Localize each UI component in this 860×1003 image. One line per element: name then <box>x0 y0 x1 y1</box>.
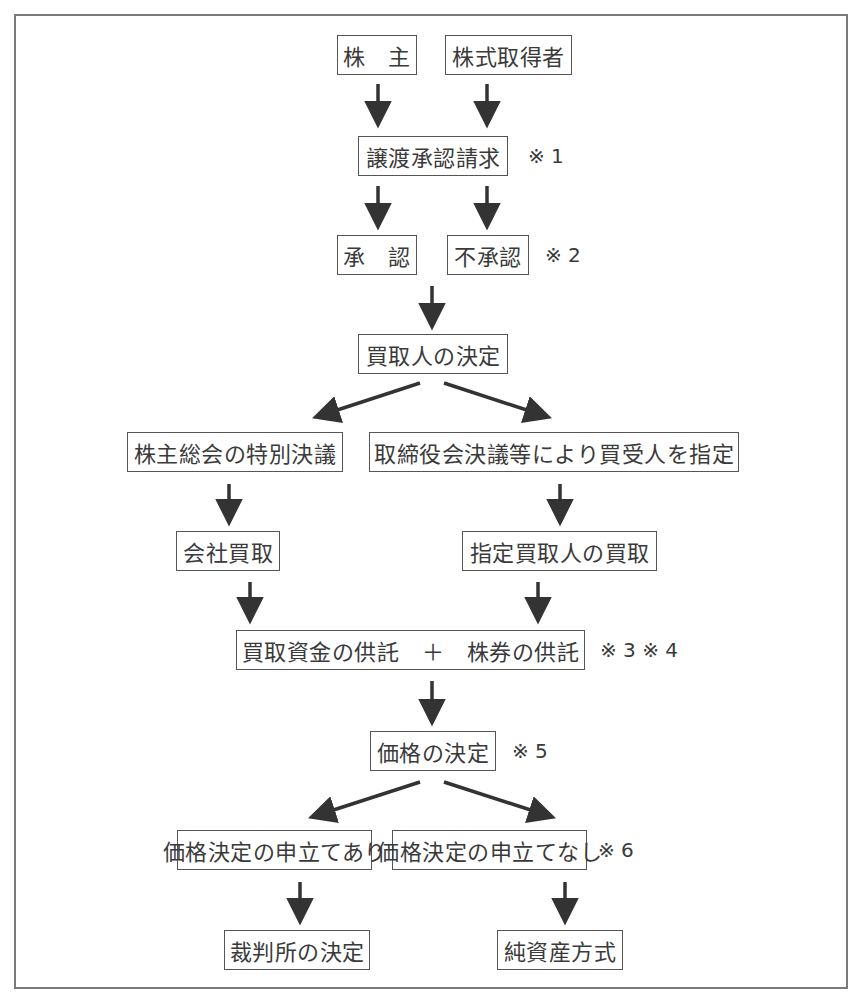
arrow-buyer-to-resolution <box>322 383 420 415</box>
node-approval: 承 認 <box>337 235 417 275</box>
arrow-buyer-to-board <box>444 383 542 415</box>
node-shareholder: 株 主 <box>337 35 417 75</box>
node-price-decision: 価格の決定 <box>370 731 496 771</box>
node-court-decision: 裁判所の決定 <box>224 930 370 970</box>
node-deposit: 買取資金の供託 ＋ 株券の供託 <box>236 630 585 670</box>
node-special-resolution: 株主総会の特別決議 <box>127 432 343 472</box>
node-company-purchase: 会社買取 <box>176 531 280 571</box>
node-net-asset-method: 純資産方式 <box>497 930 623 970</box>
note-1: ※ 1 <box>528 136 564 176</box>
node-designated-purchase: 指定買取人の買取 <box>462 531 657 571</box>
arrow-price-to-petition-no <box>444 782 546 815</box>
node-disapproval: 不承認 <box>447 235 529 275</box>
node-buyer-decision: 買取人の決定 <box>358 334 508 374</box>
note-3-4: ※ 3 ※ 4 <box>600 630 678 670</box>
node-share-acquirer: 株式取得者 <box>445 35 572 75</box>
node-transfer-request: 譲渡承認請求 <box>358 136 508 176</box>
node-petition-yes: 価格決定の申立てあり <box>177 830 372 870</box>
node-board-designation: 取締役会決議等により買受人を指定 <box>369 432 739 472</box>
node-petition-no: 価格決定の申立てなし <box>392 830 587 870</box>
arrow-price-to-petition-yes <box>318 782 420 815</box>
note-2: ※ 2 <box>545 235 581 275</box>
note-5: ※ 5 <box>512 731 548 771</box>
note-6: ※ 6 <box>598 830 634 870</box>
